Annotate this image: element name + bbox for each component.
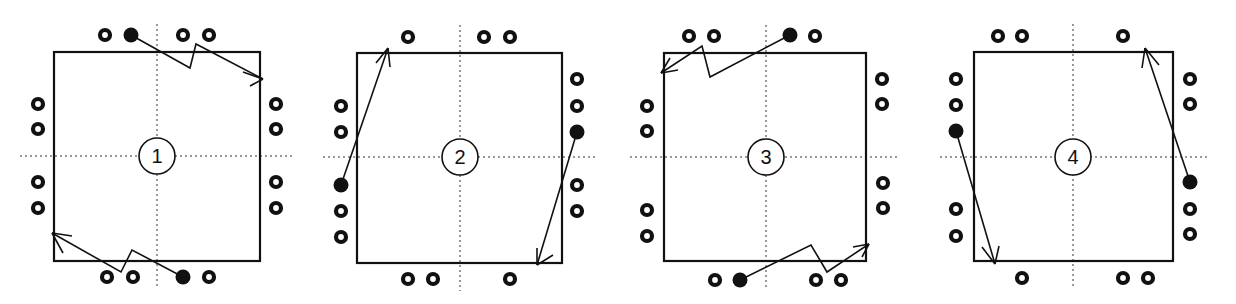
empty-position-ring <box>271 177 281 187</box>
empty-position-ring <box>204 272 214 282</box>
panel-number: 2 <box>454 146 465 168</box>
movement-arrow <box>52 233 183 277</box>
empty-position-ring <box>33 203 43 213</box>
empty-position-ring <box>710 275 720 285</box>
empty-position-ring <box>505 32 515 42</box>
empty-position-ring <box>100 30 110 40</box>
empty-position-ring <box>33 177 43 187</box>
panel-number: 1 <box>151 145 162 167</box>
empty-position-ring <box>951 100 961 110</box>
empty-position-ring <box>642 231 652 241</box>
empty-position-ring <box>1185 229 1195 239</box>
movement-arrow <box>1145 48 1190 182</box>
empty-position-ring <box>836 275 846 285</box>
empty-position-ring <box>877 99 887 109</box>
empty-position-ring <box>642 126 652 136</box>
empty-position-ring <box>951 74 961 84</box>
empty-position-ring <box>877 74 887 84</box>
empty-position-ring <box>1143 273 1153 283</box>
empty-position-ring <box>572 101 582 111</box>
rotation-diagram: 1234 <box>0 0 1236 304</box>
empty-position-ring <box>1118 31 1128 41</box>
empty-position-ring <box>1185 204 1195 214</box>
empty-position-ring <box>271 99 281 109</box>
panel-number: 4 <box>1067 146 1078 168</box>
empty-position-ring <box>33 99 43 109</box>
empty-position-ring <box>505 274 515 284</box>
empty-position-ring <box>1017 31 1027 41</box>
empty-position-ring <box>684 31 694 41</box>
empty-position-ring <box>572 180 582 190</box>
movement-arrow <box>341 48 388 185</box>
empty-position-ring <box>709 31 719 41</box>
movement-arrow <box>537 132 577 265</box>
empty-position-ring <box>1017 273 1027 283</box>
empty-position-ring <box>878 203 888 213</box>
panel-3: 3 <box>630 25 900 289</box>
empty-position-ring <box>336 206 346 216</box>
empty-position-ring <box>1118 273 1128 283</box>
empty-position-ring <box>572 206 582 216</box>
empty-position-ring <box>102 272 112 282</box>
empty-position-ring <box>1185 74 1195 84</box>
empty-position-ring <box>479 32 489 42</box>
empty-position-ring <box>403 32 413 42</box>
panel-4: 4 <box>940 24 1207 289</box>
empty-position-ring <box>336 232 346 242</box>
empty-position-ring <box>572 74 582 84</box>
panel-2: 2 <box>323 25 596 291</box>
empty-position-ring <box>811 275 821 285</box>
empty-position-ring <box>271 124 281 134</box>
empty-position-ring <box>810 31 820 41</box>
empty-position-ring <box>642 101 652 111</box>
empty-position-ring <box>204 30 214 40</box>
empty-position-ring <box>403 274 413 284</box>
empty-position-ring <box>178 30 188 40</box>
empty-position-ring <box>642 205 652 215</box>
empty-position-ring <box>951 204 961 214</box>
movement-arrow <box>956 131 995 264</box>
panel-number: 3 <box>760 146 771 168</box>
empty-position-ring <box>993 31 1003 41</box>
empty-position-ring <box>878 178 888 188</box>
empty-position-ring <box>33 124 43 134</box>
empty-position-ring <box>271 203 281 213</box>
empty-position-ring <box>336 127 346 137</box>
empty-position-ring <box>428 274 438 284</box>
empty-position-ring <box>128 272 138 282</box>
empty-position-ring <box>336 101 346 111</box>
movement-arrow <box>661 35 790 77</box>
empty-position-ring <box>951 231 961 241</box>
empty-position-ring <box>1185 99 1195 109</box>
panel-1: 1 <box>20 24 294 289</box>
arrowhead <box>388 48 390 67</box>
